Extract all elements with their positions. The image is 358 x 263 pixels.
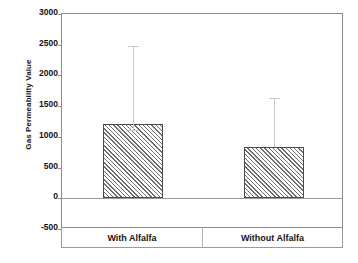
y-tick-mark <box>58 14 62 15</box>
y-tick-label: 1000 <box>12 131 58 140</box>
plot-area <box>61 13 343 228</box>
y-tick-label: 500 <box>12 162 58 171</box>
y-tick-label: 1500 <box>12 100 58 109</box>
y-tick-mark <box>58 106 62 107</box>
y-tick-label: 3000 <box>12 8 58 17</box>
error-bar-cap-lower <box>128 130 139 131</box>
y-tick-label: 2500 <box>12 39 58 48</box>
bar <box>244 147 304 199</box>
x-axis-category-label: Without Alfalfa <box>202 228 342 247</box>
y-tick-label: 2000 <box>12 69 58 78</box>
zero-baseline <box>62 198 342 199</box>
error-bar-line <box>274 98 275 147</box>
error-bar-cap <box>269 98 280 99</box>
y-tick-mark <box>58 168 62 169</box>
y-tick-mark <box>58 45 62 46</box>
y-axis-tick-labels: -500050010001500200025003000 <box>6 0 58 263</box>
error-bar-cap <box>128 46 139 47</box>
y-tick-label: 0 <box>12 192 58 201</box>
bar <box>103 124 163 198</box>
error-bar-line <box>133 46 134 130</box>
gas-permeability-bar-chart: Gas Permeability Value -5000500100015002… <box>0 0 358 263</box>
y-tick-label: -500 <box>12 223 58 232</box>
x-axis-category-label: With Alfalfa <box>62 228 202 247</box>
y-tick-mark <box>58 137 62 138</box>
y-tick-mark <box>58 75 62 76</box>
x-axis-category-band: With AlfalfaWithout Alfalfa <box>61 228 343 248</box>
